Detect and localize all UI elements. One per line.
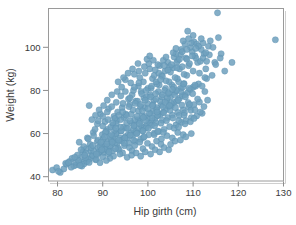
- data-point: [184, 56, 190, 62]
- x-tick-label: 80: [52, 187, 63, 198]
- x-tick-label: 90: [97, 187, 108, 198]
- data-point: [188, 130, 194, 136]
- y-tick-label: 80: [30, 85, 41, 96]
- data-point: [192, 82, 198, 88]
- data-point: [93, 151, 99, 157]
- data-point: [214, 10, 220, 16]
- data-point: [115, 79, 121, 85]
- data-point: [109, 92, 115, 98]
- data-point: [209, 72, 215, 78]
- data-point: [127, 118, 133, 124]
- data-point: [113, 125, 119, 131]
- data-point: [55, 168, 61, 174]
- data-point: [186, 85, 192, 91]
- data-point: [120, 109, 126, 115]
- data-point: [142, 97, 148, 103]
- data-point: [172, 74, 178, 80]
- data-point: [85, 136, 91, 142]
- y-axis-ticks: 406080100: [25, 42, 48, 182]
- data-point: [147, 53, 153, 59]
- data-point: [152, 123, 158, 129]
- data-point: [113, 99, 119, 105]
- data-point: [167, 102, 173, 108]
- data-point: [153, 96, 159, 102]
- data-point: [177, 137, 183, 143]
- data-point: [272, 37, 278, 43]
- data-point: [104, 109, 110, 115]
- data-point: [103, 157, 109, 163]
- data-point: [90, 142, 96, 148]
- x-axis-title: Hip girth (cm): [133, 205, 196, 217]
- data-point: [181, 71, 187, 77]
- data-point: [175, 97, 181, 103]
- data-point: [141, 134, 147, 140]
- data-point: [159, 92, 165, 98]
- data-point: [155, 128, 161, 134]
- data-point: [143, 87, 149, 93]
- data-point: [158, 136, 164, 142]
- data-point: [190, 91, 196, 97]
- data-point: [204, 97, 210, 103]
- data-point: [196, 70, 202, 76]
- data-point: [115, 137, 121, 143]
- data-point: [134, 130, 140, 136]
- data-point: [152, 67, 158, 73]
- data-point: [140, 114, 146, 120]
- y-tick-label: 100: [25, 42, 41, 53]
- data-point: [173, 45, 179, 51]
- data-point: [163, 54, 169, 60]
- data-point: [176, 118, 182, 124]
- data-point: [110, 120, 116, 126]
- y-tick-label: 60: [30, 128, 41, 139]
- data-point: [132, 100, 138, 106]
- data-point: [215, 35, 221, 41]
- data-point: [202, 74, 208, 80]
- data-point: [112, 146, 118, 152]
- data-point: [137, 139, 143, 145]
- x-tick-label: 110: [186, 187, 201, 198]
- data-point: [190, 68, 196, 74]
- data-point: [124, 125, 130, 131]
- data-point: [96, 107, 102, 113]
- data-point: [191, 115, 197, 121]
- x-tick-label: 130: [276, 187, 292, 198]
- data-point: [210, 44, 216, 50]
- data-point: [229, 59, 235, 65]
- data-point: [129, 66, 135, 72]
- data-point: [89, 116, 95, 122]
- data-point: [101, 134, 107, 140]
- data-point: [207, 38, 213, 44]
- data-point: [198, 36, 204, 42]
- data-point: [99, 147, 105, 153]
- data-point: [135, 60, 141, 66]
- data-point: [186, 101, 192, 107]
- data-point: [137, 74, 143, 80]
- data-point: [181, 81, 187, 87]
- data-point: [204, 58, 210, 64]
- data-point: [176, 124, 182, 130]
- data-point: [195, 96, 201, 102]
- data-point: [161, 110, 167, 116]
- data-point: [122, 88, 128, 94]
- data-point: [184, 46, 190, 52]
- data-point: [136, 80, 142, 86]
- data-point: [86, 102, 92, 108]
- data-point: [100, 123, 106, 129]
- data-point: [109, 139, 115, 145]
- y-tick-label: 40: [30, 171, 41, 182]
- data-point: [185, 28, 191, 34]
- data-point: [217, 55, 223, 61]
- data-point: [176, 56, 182, 62]
- data-point: [181, 112, 187, 118]
- x-tick-label: 120: [230, 187, 246, 198]
- data-point: [179, 64, 185, 70]
- data-point: [182, 94, 188, 100]
- data-point: [186, 36, 192, 42]
- scatter-plot-canvas: 8090100110120130 406080100 Hip girth (cm…: [0, 0, 296, 225]
- data-point: [189, 53, 195, 59]
- data-point: [117, 151, 123, 157]
- data-point: [86, 159, 92, 165]
- data-point: [197, 109, 203, 115]
- data-point: [183, 134, 189, 140]
- data-point: [121, 140, 127, 146]
